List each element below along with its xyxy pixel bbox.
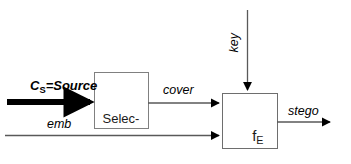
block-embedder-label: fE <box>222 111 277 163</box>
block-selection-label-line1: Selec- <box>94 112 148 127</box>
label-source-base: C <box>30 78 39 93</box>
label-source: CS=Source <box>30 79 97 95</box>
label-source-rest: =Source <box>46 78 98 93</box>
diagram-canvas: Selec- fE CS=Source cover emb key stego <box>0 0 351 164</box>
label-key: key <box>228 33 241 52</box>
block-embedder-label-subscript: E <box>256 134 263 146</box>
block-selection-label: Selec- <box>94 83 148 164</box>
label-cover: cover <box>163 84 194 97</box>
label-emb: emb <box>47 118 71 131</box>
label-stego: stego <box>288 105 319 118</box>
